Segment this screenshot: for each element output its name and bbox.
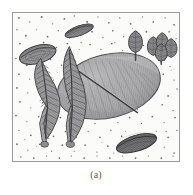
- panel-label: (a): [90, 169, 102, 180]
- figure-panel: (a): [0, 0, 193, 195]
- fossil-plate-illustration: [13, 13, 179, 161]
- illustration-frame: [12, 12, 180, 162]
- figure-caption: (a): [12, 164, 180, 184]
